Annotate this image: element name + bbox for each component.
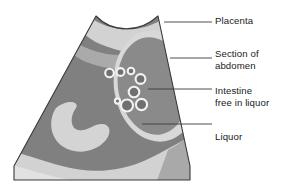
intestine-loop-circle xyxy=(105,69,114,78)
label-section-of-abdomen: Section of abdomen xyxy=(215,48,259,71)
label-intestine-free-in-liquor: Intestine free in liquor xyxy=(215,85,269,108)
intestine-loop-circle xyxy=(136,99,147,110)
ultrasound-figure: Placenta Section of abdomen Intestine fr… xyxy=(0,0,297,195)
intestine-loop-circle xyxy=(121,100,133,112)
label-liquor: Liquor xyxy=(215,131,242,143)
intestine-loop-circle xyxy=(129,87,140,98)
intestine-loop-circle xyxy=(136,74,146,84)
intestine-loop-circle xyxy=(115,98,120,103)
intestine-loop-circle xyxy=(117,68,125,76)
intestine-loop-circle xyxy=(128,68,135,75)
label-placenta: Placenta xyxy=(215,15,253,27)
